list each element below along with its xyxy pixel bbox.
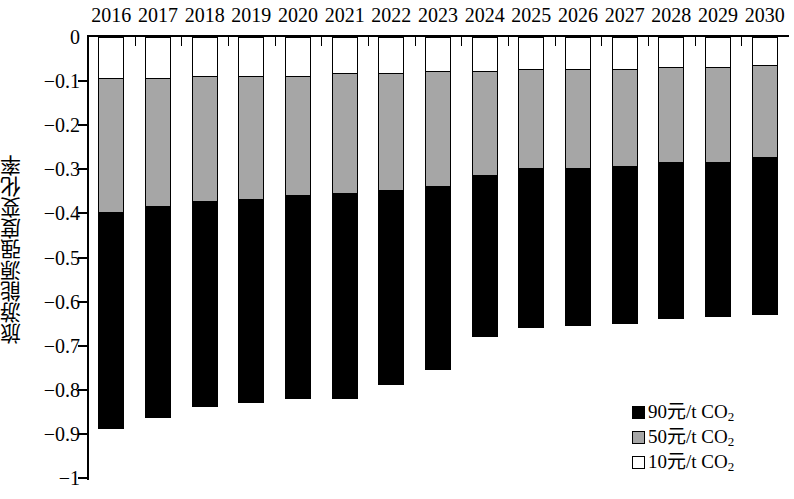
bar-segment[interactable] — [425, 72, 451, 187]
bar-segment[interactable] — [705, 68, 731, 163]
bar-segment[interactable] — [565, 37, 591, 70]
x-axis-minor-tick — [741, 37, 742, 46]
y-axis-tick-label: −0.2 — [44, 115, 80, 135]
bar-segment[interactable] — [145, 79, 171, 207]
legend-color-swatch — [632, 456, 645, 469]
bar-segment[interactable] — [425, 37, 451, 72]
x-axis-tick-label: 2029 — [695, 2, 742, 28]
bar-segment[interactable] — [472, 176, 498, 337]
y-axis-tick-mark — [78, 477, 88, 479]
legend-label-subscript: 2 — [728, 409, 735, 424]
y-axis-tick-mark — [78, 212, 88, 214]
y-axis-tick-label: −0.8 — [44, 380, 80, 400]
y-axis-tick-label: −0.1 — [44, 71, 80, 91]
y-axis-tick-mark — [78, 124, 88, 126]
bar-segment[interactable] — [752, 158, 778, 315]
y-axis-tick-label: −0.5 — [44, 248, 80, 268]
legend-item-label: 10元/t CO2 — [648, 452, 734, 473]
y-axis-tick-label: −0.4 — [44, 203, 80, 223]
y-axis-tick-mark — [78, 168, 88, 170]
bar-segment[interactable] — [518, 37, 544, 70]
bar-segment[interactable] — [518, 70, 544, 169]
bar-segment[interactable] — [705, 37, 731, 68]
legend-color-swatch — [632, 406, 645, 419]
legend-item[interactable]: 50元/t CO2 — [632, 425, 792, 450]
x-axis-tick-label: 2023 — [415, 2, 462, 28]
bar-segment[interactable] — [98, 37, 124, 79]
y-axis-tick-label: −1 — [59, 468, 80, 488]
bar-segment[interactable] — [332, 37, 358, 74]
x-axis-minor-tick — [368, 37, 369, 46]
bar-segment[interactable] — [192, 77, 218, 203]
x-axis-tick-label: 2024 — [461, 2, 508, 28]
bar-group[interactable] — [238, 37, 264, 478]
bar-group[interactable] — [378, 37, 404, 478]
x-axis-minor-tick — [601, 37, 602, 46]
bar-segment[interactable] — [145, 37, 171, 79]
bar-segment[interactable] — [658, 163, 684, 320]
bar-segment[interactable] — [192, 37, 218, 77]
bar-group[interactable] — [518, 37, 544, 478]
legend-item[interactable]: 90元/t CO2 — [632, 400, 792, 425]
bar-segment[interactable] — [332, 194, 358, 399]
x-axis-tick-label: 2027 — [601, 2, 648, 28]
y-axis-tick-label: −0.3 — [44, 159, 80, 179]
x-axis-tick-label: 2026 — [555, 2, 602, 28]
bar-segment[interactable] — [752, 66, 778, 159]
bar-segment[interactable] — [425, 187, 451, 370]
x-axis-minor-tick — [648, 37, 649, 46]
x-axis-minor-tick — [508, 37, 509, 46]
x-axis-minor-tick — [695, 37, 696, 46]
y-axis-tick-mark — [78, 80, 88, 82]
bar-group[interactable] — [472, 37, 498, 478]
bar-segment[interactable] — [98, 213, 124, 429]
bar-group[interactable] — [285, 37, 311, 478]
bar-segment[interactable] — [378, 191, 404, 385]
y-axis-tick-mark — [78, 433, 88, 435]
bar-segment[interactable] — [612, 167, 638, 324]
y-axis-title: 旅游能源强度变化率 — [0, 120, 26, 380]
bar-segment[interactable] — [332, 74, 358, 193]
y-axis-tick-label: 0 — [70, 27, 80, 47]
stacked-bar-chart: 旅游能源强度变化率 0−0.1−0.2−0.3−0.4−0.5−0.6−0.7−… — [0, 0, 794, 499]
bar-segment[interactable] — [145, 207, 171, 419]
bar-segment[interactable] — [612, 37, 638, 70]
bar-group[interactable] — [565, 37, 591, 478]
x-axis-minor-tick — [135, 37, 136, 46]
bar-group[interactable] — [192, 37, 218, 478]
bar-group[interactable] — [332, 37, 358, 478]
legend-label-subscript: 2 — [728, 434, 735, 449]
bar-segment[interactable] — [238, 37, 264, 77]
bar-segment[interactable] — [658, 68, 684, 163]
bar-segment[interactable] — [565, 70, 591, 169]
bar-segment[interactable] — [285, 77, 311, 196]
bar-segment[interactable] — [705, 163, 731, 317]
x-axis-tick-label-group: 2016201720182019202020212022202320242025… — [88, 2, 794, 30]
bar-segment[interactable] — [612, 70, 638, 167]
x-axis-tick-label: 2030 — [741, 2, 788, 28]
x-axis-tick-label: 2018 — [181, 2, 228, 28]
bar-segment[interactable] — [472, 72, 498, 176]
y-axis-tick-mark — [78, 301, 88, 303]
bar-segment[interactable] — [238, 77, 264, 200]
bar-segment[interactable] — [472, 37, 498, 72]
bar-segment[interactable] — [238, 200, 264, 403]
x-axis-minor-tick — [321, 37, 322, 46]
bar-segment[interactable] — [378, 37, 404, 74]
bar-segment[interactable] — [518, 169, 544, 328]
bar-group[interactable] — [98, 37, 124, 478]
bar-segment[interactable] — [565, 169, 591, 326]
x-axis-minor-tick — [275, 37, 276, 46]
x-axis-tick-label: 2019 — [228, 2, 275, 28]
bar-group[interactable] — [145, 37, 171, 478]
bar-segment[interactable] — [752, 37, 778, 66]
legend-color-swatch — [632, 431, 645, 444]
bar-segment[interactable] — [378, 74, 404, 191]
bar-segment[interactable] — [658, 37, 684, 68]
bar-group[interactable] — [425, 37, 451, 478]
bar-segment[interactable] — [98, 79, 124, 214]
bar-segment[interactable] — [285, 196, 311, 399]
legend-item[interactable]: 10元/t CO2 — [632, 450, 792, 475]
bar-segment[interactable] — [285, 37, 311, 77]
bar-segment[interactable] — [192, 202, 218, 407]
